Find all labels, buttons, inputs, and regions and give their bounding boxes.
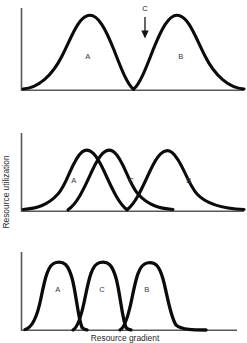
panel-a-marker-label: C	[142, 4, 148, 13]
down-arrow-head-icon	[141, 31, 148, 39]
panel-c: A C B	[21, 252, 237, 331]
panel-a-label-b: B	[178, 52, 183, 61]
panel-b: A C B	[21, 133, 244, 212]
panel-b-label-b: B	[186, 176, 191, 185]
figure-container: A B C A C B A	[0, 0, 247, 343]
resource-utilization-figure: A B C A C B A	[0, 0, 247, 343]
y-axis-title: Resource utilization	[1, 155, 11, 228]
panel-c-label-b: B	[144, 285, 149, 294]
panel-c-curve-b	[120, 263, 206, 330]
panel-a-curve-b	[134, 15, 245, 89]
panel-a-invasion-marker: C	[141, 4, 148, 39]
panel-a: A B C	[21, 4, 244, 91]
panel-a-curve-a	[23, 15, 134, 89]
panel-c-curve-c	[73, 262, 131, 330]
panel-c-label-c: C	[99, 285, 105, 294]
panel-b-label-a: A	[71, 176, 77, 185]
panel-c-label-a: A	[55, 285, 61, 294]
x-axis-title: Resource gradient	[91, 333, 160, 343]
panel-b-label-c: C	[128, 176, 134, 185]
panel-a-label-a: A	[85, 52, 91, 61]
